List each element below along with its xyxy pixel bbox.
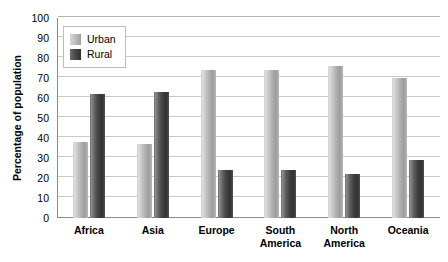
y-tick-label-10: 10 <box>37 192 49 204</box>
bar-group <box>121 18 185 218</box>
bar-chart: Percentage of population 100908070605040… <box>0 0 448 262</box>
x-axis-tick-labels: AfricaAsiaEuropeSouth AmericaNorth Ameri… <box>57 224 440 262</box>
bar-rural <box>281 170 296 218</box>
rural-swatch <box>70 49 81 60</box>
bar-group <box>249 18 313 218</box>
x-tick-label: North America <box>312 224 376 250</box>
legend-item-urban: Urban <box>70 32 116 46</box>
y-tick-label-0: 0 <box>43 212 49 224</box>
bar-rural <box>90 94 105 218</box>
x-tick-label: Asia <box>121 224 185 237</box>
bar-group <box>376 18 440 218</box>
y-axis-tick-labels: 1009080706050403020100 <box>0 0 57 236</box>
bar-urban <box>73 142 88 218</box>
gridline-100 <box>58 16 440 17</box>
x-tick-label: Europe <box>185 224 249 237</box>
y-tick-label-40: 40 <box>37 132 49 144</box>
legend-label: Rural <box>87 48 112 60</box>
bar-urban <box>137 144 152 218</box>
bar-urban <box>328 66 343 218</box>
bar-urban <box>392 78 407 218</box>
urban-swatch <box>70 34 81 45</box>
x-tick-label: Africa <box>57 224 121 237</box>
x-tick-label: Oceania <box>376 224 440 237</box>
bar-rural <box>345 174 360 218</box>
bar-group <box>312 18 376 218</box>
y-tick-label-50: 50 <box>37 112 49 124</box>
x-tick-label: South America <box>249 224 313 250</box>
y-tick-label-30: 30 <box>37 152 49 164</box>
y-tick-label-90: 90 <box>37 32 49 44</box>
bar-rural <box>409 160 424 218</box>
y-tick-label-70: 70 <box>37 72 49 84</box>
bar-rural <box>218 170 233 218</box>
y-tick-label-20: 20 <box>37 172 49 184</box>
bar-urban <box>201 70 216 218</box>
bar-urban <box>264 70 279 218</box>
bar-rural <box>154 92 169 218</box>
legend-label: Urban <box>87 33 116 45</box>
legend-item-rural: Rural <box>70 47 116 61</box>
bar-group <box>185 18 249 218</box>
chart-legend: UrbanRural <box>63 26 126 68</box>
y-tick-label-80: 80 <box>37 52 49 64</box>
y-tick-label-60: 60 <box>37 92 49 104</box>
y-tick-label-100: 100 <box>31 12 49 24</box>
